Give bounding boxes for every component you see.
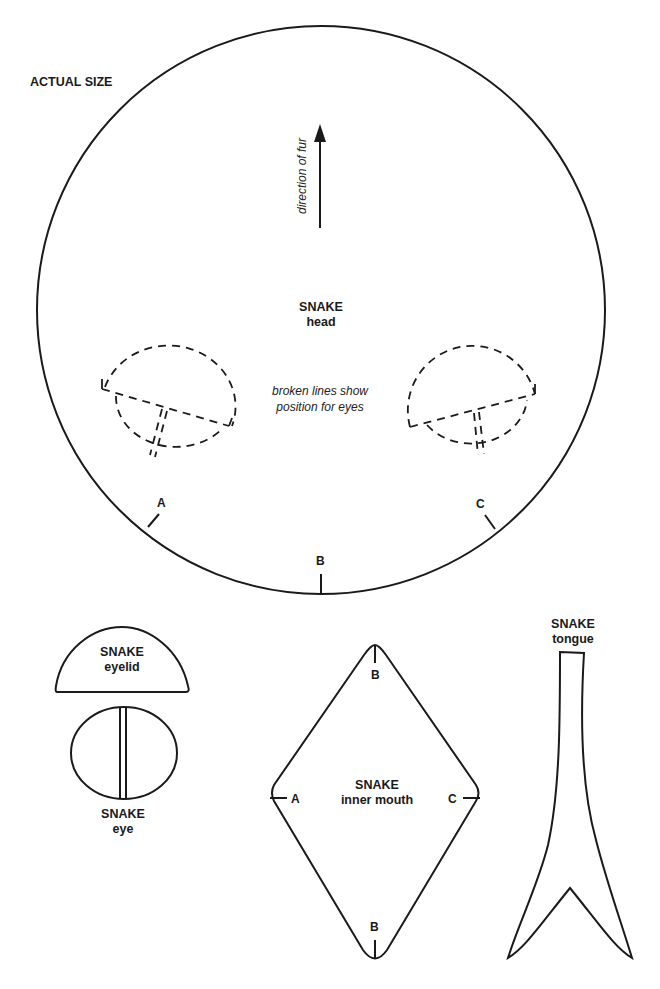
head-mark-c: C — [476, 498, 485, 510]
tongue-outline — [508, 652, 632, 958]
mouth-mark-top: B — [371, 669, 380, 681]
scale-label: ACTUAL SIZE — [30, 75, 112, 90]
eye-title: SNAKE eye — [73, 807, 173, 837]
tongue-title: SNAKE tongue — [523, 617, 623, 647]
eye-outline — [71, 707, 177, 799]
head-title: SNAKE head — [271, 300, 371, 330]
head-mark-a: A — [157, 497, 166, 509]
inner-mouth-title: SNAKE inner mouth — [327, 778, 427, 808]
left-eye-guide — [102, 346, 236, 457]
mouth-mark-right: C — [448, 793, 457, 805]
eyelid-title: SNAKE eyelid — [72, 645, 172, 675]
fur-direction-label: direction of fur — [294, 126, 310, 226]
mouth-mark-bottom: B — [370, 921, 379, 933]
mouth-mark-left: A — [291, 793, 300, 805]
arrow-up-icon — [314, 124, 326, 228]
head-mark-b: B — [316, 555, 325, 567]
eye-position-note: broken lines show position for eyes — [240, 383, 400, 415]
notch-c — [485, 515, 495, 529]
right-eye-guide — [408, 346, 535, 455]
notch-a — [148, 514, 159, 527]
pattern-drawing — [0, 0, 660, 989]
